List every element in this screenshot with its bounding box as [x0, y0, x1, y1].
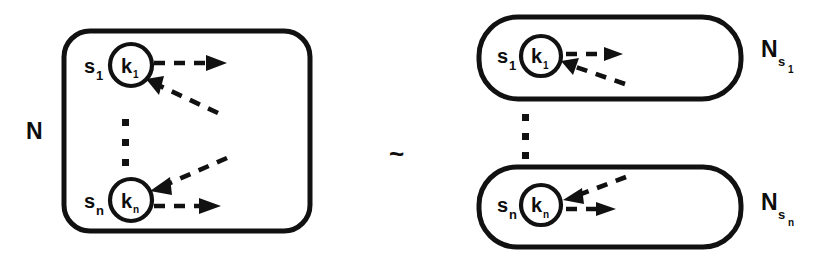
left-node-1: s 1 k 1 — [84, 44, 227, 113]
diagram-canvas: N s 1 k 1 — [0, 0, 819, 262]
left-node-n: s n k n — [84, 158, 227, 221]
left-container-label: N — [26, 118, 43, 144]
diagram-svg: N s 1 k 1 — [0, 0, 819, 262]
right-box-1-container-label: N — [761, 36, 778, 62]
right-box-n-outgoing-dashed-arrow-icon — [566, 202, 616, 216]
left-node-1-kernel-subscript: 1 — [133, 69, 139, 80]
right-box-n-incoming-dashed-arrow-icon — [563, 177, 626, 204]
right-box-1-state-subscript: 1 — [509, 58, 516, 73]
left-node-1-state-subscript: 1 — [96, 68, 103, 83]
right-box-1-incoming-dashed-arrow-icon — [561, 58, 625, 84]
right-box-n-state-subscript: n — [509, 207, 517, 222]
left-node-n-incoming-dashed-arrow-icon — [150, 158, 227, 195]
right-box-n-container-subscript: s — [778, 207, 785, 222]
right-box-1-container-subscript: s — [778, 54, 785, 69]
right-box-1-state-label: s — [497, 45, 508, 67]
right-box-1: s 1 k 1 N s 1 — [479, 17, 794, 99]
left-network-group: N s 1 k 1 — [26, 31, 310, 231]
left-node-1-incoming-dashed-arrow-icon — [146, 76, 218, 113]
left-container-box — [64, 31, 310, 231]
left-node-n-kernel-label: k — [121, 190, 133, 212]
right-box-n: s n k n N s n — [479, 167, 794, 247]
right-box-1-kernel-label: k — [531, 45, 543, 67]
left-node-n-outgoing-dashed-arrow-icon — [154, 198, 221, 214]
right-networks-group: s 1 k 1 N s 1 — [479, 17, 794, 247]
right-box-1-label-group: N s 1 — [761, 36, 794, 75]
right-box-n-kernel-subscript: n — [543, 209, 549, 220]
left-node-1-state-label: s — [84, 55, 95, 77]
left-node-1-kernel-label: k — [121, 55, 133, 77]
right-box-1-container-subscript-index: 1 — [788, 64, 794, 75]
left-node-n-state-label: s — [84, 190, 95, 212]
left-node-n-state-subscript: n — [96, 203, 104, 218]
left-node-1-outgoing-dashed-arrow-icon — [154, 55, 227, 71]
right-box-n-container-subscript-index: n — [788, 217, 794, 228]
right-box-n-kernel-label: k — [531, 194, 543, 216]
equivalence-relation-symbol: ~ — [389, 139, 404, 169]
right-vertical-ellipsis — [522, 114, 529, 159]
right-box-n-container-label: N — [761, 189, 778, 215]
right-box-1-kernel-subscript: 1 — [543, 60, 549, 71]
left-node-n-kernel-subscript: n — [133, 204, 139, 215]
right-box-n-label-group: N s n — [761, 189, 794, 228]
left-vertical-ellipsis — [122, 119, 129, 166]
right-box-n-state-label: s — [497, 194, 508, 216]
